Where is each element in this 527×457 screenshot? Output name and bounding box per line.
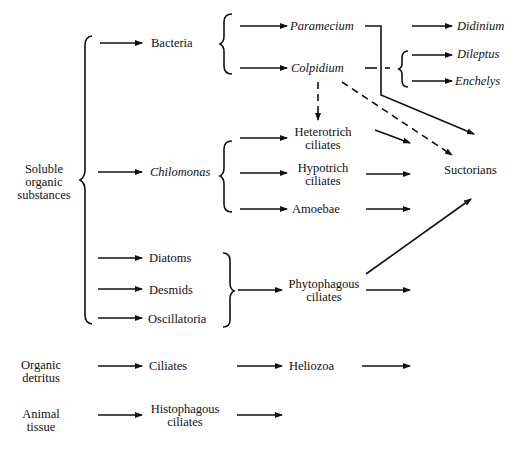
brace-soluble (80, 36, 92, 324)
label-didinium: Didinium (457, 20, 504, 33)
label-diatoms: Diatoms (149, 252, 191, 265)
label-line: substances (14, 189, 74, 202)
food-web-diagram: Soluble organic substances Organic detri… (0, 0, 527, 457)
label-line: ciliates (290, 175, 356, 188)
label-line: tissue (14, 421, 68, 434)
label-bacteria: Bacteria (151, 37, 193, 50)
connector-lines (0, 0, 527, 457)
label-chilomonas: Chilomonas (150, 166, 210, 179)
label-ciliates: Ciliates (149, 360, 187, 373)
label-colpidium: Colpidium (291, 62, 344, 75)
label-heliozoa: Heliozoa (289, 360, 334, 373)
label-organic-detritus: Organic detritus (14, 359, 68, 385)
label-enchelys: Enchelys (455, 75, 500, 88)
label-suctorians: Suctorians (444, 164, 497, 177)
label-desmids: Desmids (149, 284, 193, 297)
label-line: ciliates (290, 139, 356, 152)
label-oscillatoria: Oscillatoria (148, 313, 206, 326)
label-histophagous-ciliates: Histophagous ciliates (148, 403, 222, 429)
brace-algae (223, 253, 234, 327)
label-line: ciliates (148, 416, 222, 429)
label-soluble-organic-substances: Soluble organic substances (14, 163, 74, 202)
label-dileptus: Dileptus (457, 48, 499, 61)
brace-bacteria (220, 14, 232, 74)
label-hypotrich-ciliates: Hypotrich ciliates (290, 162, 356, 188)
label-animal-tissue: Animal tissue (14, 408, 68, 434)
label-heterotrich-ciliates: Heterotrich ciliates (290, 126, 356, 152)
label-line: detritus (14, 372, 68, 385)
brace-chilomonas (220, 141, 232, 212)
label-amoebae: Amoebae (292, 203, 340, 216)
label-phytophagous-ciliates: Phytophagous ciliates (284, 278, 364, 304)
label-paramecium: Paramecium (290, 20, 354, 33)
label-line: ciliates (284, 291, 364, 304)
